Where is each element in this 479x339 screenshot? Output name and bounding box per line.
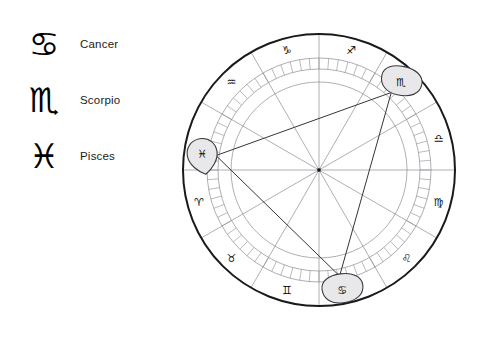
degree-tick [417, 196, 428, 199]
sign-glyph-gemini: ♊ [282, 284, 292, 297]
degree-tick [390, 241, 398, 249]
degree-tick [227, 106, 236, 112]
degree-tick [290, 62, 293, 73]
degree-tick [337, 60, 339, 71]
degree-tick [247, 247, 254, 255]
zodiac-wheel-svg: ♑♐♎♍♌♊♉♈♒ ♓♏♋ [183, 34, 455, 306]
degree-tick [417, 141, 428, 144]
sign-legend: ♋ Cancer ♏ Scorpio ♓ Pisces [18, 18, 168, 186]
degree-tick [420, 179, 431, 180]
zodiac-wheel: ♑♐♎♍♌♊♉♈♒ ♓♏♋ [183, 34, 455, 306]
degree-tick [309, 58, 310, 69]
degree-tick [309, 271, 310, 282]
degree-tick [281, 65, 285, 75]
marker-glyph-pisces: ♓ [197, 148, 207, 161]
degree-tick [272, 262, 277, 272]
house-cusp-line [201, 102, 319, 170]
degree-tick [217, 213, 227, 218]
house-cusp-line [319, 52, 387, 170]
degree-tick [354, 65, 358, 75]
sign-glyph-aries: ♈ [194, 196, 204, 209]
degree-tick [214, 132, 224, 136]
list-item: ♋ Cancer [18, 18, 168, 70]
sign-glyph-capricorn: ♑ [282, 44, 292, 57]
degree-tick [247, 84, 254, 92]
degree-tick [209, 188, 220, 190]
degree-tick [217, 123, 227, 128]
legend-label-scorpio: Scorpio [80, 94, 120, 106]
planet-markers-group: ♓♏♋ [185, 62, 425, 305]
degree-tick [345, 62, 348, 73]
degree-tick [384, 247, 391, 255]
sign-glyph-libra: ♎ [434, 132, 444, 145]
sign-glyph-virgo: ♍ [434, 196, 444, 209]
legend-label-cancer: Cancer [80, 38, 118, 50]
list-item: ♓ Pisces [18, 130, 168, 182]
degree-tick [411, 213, 421, 218]
degree-tick [420, 160, 431, 161]
degree-tick [255, 253, 261, 262]
degree-tick [281, 265, 285, 275]
degree-tick [418, 151, 429, 153]
degree-tick [396, 98, 404, 105]
degree-tick [328, 58, 329, 69]
degree-tick [411, 123, 421, 128]
degree-tick [396, 235, 404, 242]
aspect-line [340, 92, 392, 276]
center-point [317, 168, 320, 171]
scorpio-glyph-icon: ♏ [18, 83, 70, 117]
degree-tick [290, 268, 293, 279]
chart-center-dot [317, 168, 320, 171]
sign-glyph-aquarius: ♒ [226, 76, 236, 89]
degree-tick [300, 60, 302, 71]
sign-glyph-leo: ♌ [402, 252, 412, 265]
degree-tick [418, 188, 429, 190]
degree-tick [240, 241, 248, 249]
marker-glyph-cancer: ♋ [337, 284, 347, 297]
list-item: ♏ Scorpio [18, 74, 168, 126]
cancer-glyph-icon: ♋ [18, 27, 70, 61]
degree-tick [362, 262, 367, 272]
aspect-lines-group [216, 92, 391, 276]
degree-tick [402, 106, 411, 112]
degree-tick [255, 78, 261, 87]
degree-tick [272, 68, 277, 78]
house-cusp-line [201, 170, 319, 238]
sign-glyph-sagittarius: ♐ [346, 44, 356, 57]
degree-tick [414, 205, 424, 209]
degree-tick [414, 132, 424, 136]
house-cusp-line [251, 170, 319, 288]
degree-tick [354, 265, 358, 275]
degree-tick [214, 205, 224, 209]
degree-tick [207, 179, 218, 180]
house-cusp-line [319, 170, 437, 238]
house-cusp-line [251, 52, 319, 170]
degree-tick [300, 269, 302, 280]
degree-tick [377, 253, 383, 262]
pisces-glyph-icon: ♓ [18, 139, 70, 173]
degree-tick [227, 228, 236, 234]
legend-label-pisces: Pisces [80, 150, 115, 162]
degree-tick [233, 235, 241, 242]
degree-tick [211, 196, 222, 199]
sign-glyph-taurus: ♉ [226, 252, 236, 265]
astrology-chart-page: ♋ Cancer ♏ Scorpio ♓ Pisces ♑♐♎♍♌♊♉♈♒ ♓♏… [0, 0, 479, 339]
aspect-line [216, 92, 391, 155]
degree-tick [240, 91, 248, 99]
degree-tick [362, 68, 367, 78]
degree-tick [233, 98, 241, 105]
degree-tick [402, 228, 411, 234]
marker-glyph-scorpio: ♏ [396, 76, 406, 89]
